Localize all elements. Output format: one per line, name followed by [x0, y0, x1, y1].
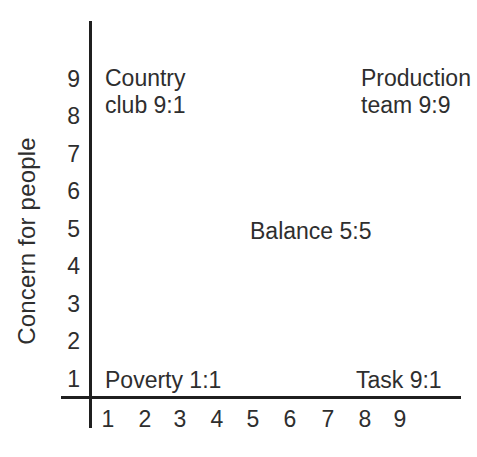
y-tick-5: 5 [40, 215, 80, 243]
x-tick-4: 4 [202, 405, 232, 433]
annotation-production-team: Production team 9:9 [361, 65, 471, 119]
managerial-grid-chart: Concern for people 9 8 7 6 5 4 3 2 1 1 2… [0, 0, 477, 457]
x-tick-8: 8 [350, 405, 380, 433]
y-axis-line [89, 21, 92, 428]
y-tick-2: 2 [40, 327, 80, 355]
x-tick-5: 5 [238, 405, 268, 433]
annotation-task: Task 9:1 [356, 367, 442, 394]
y-tick-3: 3 [40, 290, 80, 318]
annotation-production-team-line1: Production [361, 65, 471, 92]
x-tick-3: 3 [165, 405, 195, 433]
x-axis-line [61, 396, 461, 399]
annotation-production-team-line2: team 9:9 [361, 92, 471, 119]
y-tick-7: 7 [40, 140, 80, 168]
x-tick-7: 7 [313, 405, 343, 433]
y-axis-title: Concern for people [13, 137, 41, 345]
y-tick-4: 4 [40, 252, 80, 280]
annotation-country-club: Country club 9:1 [105, 65, 186, 119]
annotation-poverty: Poverty 1:1 [105, 367, 221, 394]
y-tick-6: 6 [40, 177, 80, 205]
x-tick-2: 2 [130, 405, 160, 433]
y-tick-1: 1 [40, 365, 80, 393]
y-tick-9: 9 [40, 65, 80, 93]
x-tick-1: 1 [93, 405, 123, 433]
x-tick-6: 6 [275, 405, 305, 433]
annotation-country-club-line1: Country [105, 65, 186, 92]
y-tick-8: 8 [40, 102, 80, 130]
x-tick-9: 9 [385, 405, 415, 433]
annotation-balance: Balance 5:5 [250, 218, 371, 245]
annotation-country-club-line2: club 9:1 [105, 92, 186, 119]
